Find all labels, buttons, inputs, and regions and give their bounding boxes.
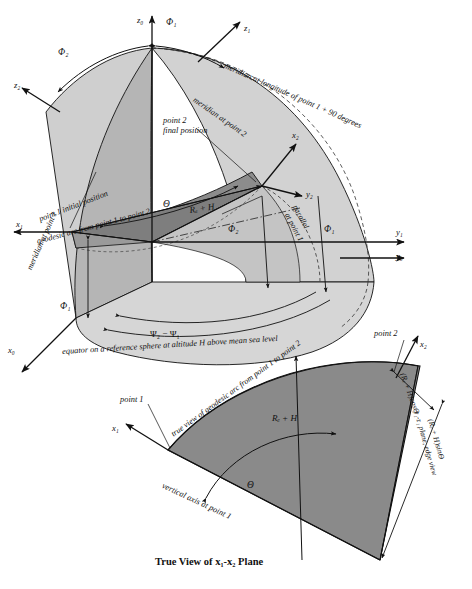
z1-axis-label: z₁ (244, 24, 250, 33)
z2-axis-line (22, 88, 60, 112)
psi-difference-label: Ψ₂ − Ψ₁ (150, 330, 180, 339)
true-view-sector (168, 362, 420, 560)
point2-final-position-label: final position (163, 127, 207, 135)
z2-axis-label: z₂ (14, 81, 20, 90)
x1-axis-lower-label: x₁ (112, 424, 119, 433)
point1-leader-lower (148, 404, 170, 448)
figure-vector-graphics (0, 0, 472, 589)
z1-axis-line (198, 22, 240, 62)
point1-label-lower: point 1 (120, 396, 144, 404)
theta-lower-label: Θ (247, 481, 254, 490)
upper-sphere-group (14, 16, 404, 372)
theta-upper-label: Θ (163, 200, 170, 209)
phi1-lower-label: Φ₁ (60, 302, 70, 311)
x2-axis-label: x₂ (292, 131, 299, 140)
x0-axis-label: x₀ (8, 346, 15, 355)
x2-axis-lower-label: x₂ (420, 340, 427, 349)
y2-axis-label: y₂ (306, 190, 313, 199)
x0-axis-line (22, 318, 76, 372)
phi2-top-label: Φ₂ (58, 48, 68, 57)
lower-true-view-group (126, 336, 442, 560)
point2-label-lower: point 2 (374, 330, 398, 338)
geodesic-navigation-figure: z₀ z₁ z₂ x₀ x₁ x₂ y₂ y₁ y₀ Φ₁ Φ₂ Φ₁ Φ₂ Φ… (0, 0, 472, 589)
radius-plus-altitude-lower-label: Rₑ + H (272, 414, 297, 423)
phi2-lower-label: Φ₂ (228, 225, 238, 234)
x1-axis-lower-line (126, 424, 168, 450)
y0-axis-label: y₀ (396, 252, 403, 261)
phi1-right-label: Φ₁ (324, 225, 334, 234)
point2-label-upper: point 2 (163, 117, 187, 125)
y1-axis-label: y₁ (396, 228, 403, 237)
phi1-top-label: Φ₁ (166, 18, 176, 27)
figure-title: True View of x₁-x₂ Plane (155, 557, 263, 568)
x1-axis-label: x₁ (16, 220, 23, 229)
z0-axis-label: z₀ (137, 16, 143, 25)
